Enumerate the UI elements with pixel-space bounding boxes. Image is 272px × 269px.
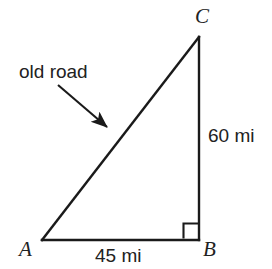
old-road-annotation-label: old road — [19, 62, 88, 81]
side-length-label-ab: 45 mi — [95, 246, 141, 265]
vertex-label-b: B — [203, 239, 216, 260]
right-angle-marker-icon — [184, 224, 199, 239]
vertex-label-a: A — [19, 239, 32, 260]
vertex-label-c: C — [195, 6, 209, 27]
old-road-arrow-icon — [58, 85, 107, 127]
side-length-label-bc: 60 mi — [208, 126, 254, 145]
